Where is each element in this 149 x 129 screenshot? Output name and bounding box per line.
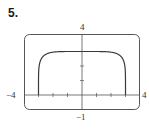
- y-min-label: −1: [76, 112, 86, 122]
- x-max-label: 4: [142, 90, 147, 100]
- y-max-label: 4: [80, 22, 85, 32]
- x-min-label: −4: [6, 90, 16, 100]
- graph-window: −4 4 4 −1: [0, 0, 149, 129]
